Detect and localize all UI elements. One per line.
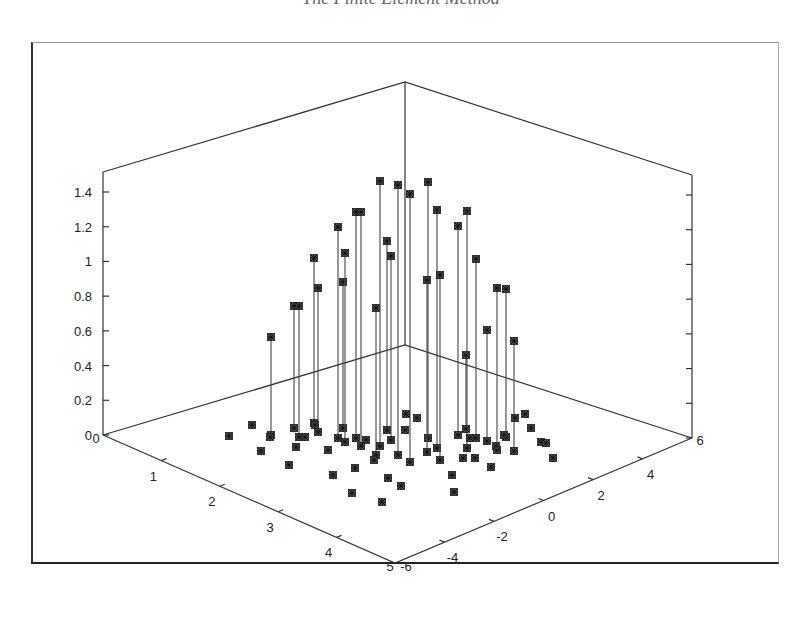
- x-tick-label: 4: [325, 545, 332, 560]
- asterisk-marker: [463, 207, 471, 215]
- y-tick: [588, 478, 593, 480]
- asterisk-marker: [406, 458, 414, 466]
- asterisk-marker: [483, 326, 491, 334]
- asterisk-marker: [257, 447, 265, 455]
- asterisk-marker: [511, 414, 519, 422]
- asterisk-marker: [339, 278, 347, 286]
- asterisk-marker: [394, 451, 402, 459]
- z-tick-label: 1.4: [74, 185, 92, 200]
- asterisk-marker: [314, 284, 322, 292]
- asterisk-marker: [225, 432, 233, 440]
- asterisk-marker: [285, 461, 293, 469]
- asterisk-marker: [334, 223, 342, 231]
- x-tick-label: 1: [150, 469, 157, 484]
- asterisk-marker: [341, 249, 349, 257]
- z-tick-label: 0.8: [74, 289, 92, 304]
- asterisk-marker: [527, 424, 535, 432]
- asterisk-marker: [370, 456, 378, 464]
- y-tick-label: 6: [696, 433, 703, 448]
- asterisk-marker: [394, 181, 402, 189]
- asterisk-marker: [378, 498, 386, 506]
- asterisk-marker: [436, 456, 444, 464]
- asterisk-marker: [384, 474, 392, 482]
- asterisk-marker: [310, 254, 318, 262]
- asterisk-marker: [487, 463, 495, 471]
- z-tick-label: 0.2: [74, 393, 92, 408]
- asterisk-marker: [459, 454, 467, 462]
- asterisk-marker: [292, 443, 300, 451]
- y-tick: [489, 519, 494, 521]
- y-tick: [440, 540, 445, 542]
- asterisk-marker: [492, 442, 500, 450]
- asterisk-marker: [466, 434, 474, 442]
- asterisk-marker: [549, 454, 557, 462]
- asterisk-marker: [493, 284, 501, 292]
- asterisk-marker: [424, 178, 432, 186]
- asterisk-marker: [502, 285, 510, 293]
- z-tick-label: 0: [85, 428, 92, 443]
- x-tick-label: 3: [267, 520, 274, 535]
- asterisk-marker: [311, 421, 319, 429]
- x-tick-label: 2: [208, 494, 215, 509]
- y-tick-label: 2: [597, 488, 604, 503]
- asterisk-marker: [301, 433, 309, 441]
- asterisk-marker: [324, 446, 332, 454]
- asterisk-marker: [341, 438, 349, 446]
- asterisk-marker: [483, 437, 491, 445]
- top-back-edges: [103, 82, 692, 175]
- asterisk-marker: [339, 424, 347, 432]
- asterisk-marker: [362, 436, 370, 444]
- x-tick-label: 5: [386, 559, 393, 574]
- asterisk-marker: [471, 454, 479, 462]
- asterisk-marker: [510, 337, 518, 345]
- z-tick-label: 0.4: [74, 359, 92, 374]
- asterisk-marker: [542, 439, 550, 447]
- asterisk-marker: [448, 471, 456, 479]
- y-tick: [638, 457, 643, 459]
- stem3d-plot: 00.20.40.60.811.21.4 012345 -6-4-20246: [0, 0, 802, 622]
- y-tick-label: -6: [400, 559, 412, 574]
- asterisk-marker: [433, 206, 441, 214]
- asterisk-marker: [454, 431, 462, 439]
- asterisk-marker: [463, 444, 471, 452]
- asterisk-marker: [462, 351, 470, 359]
- asterisk-marker: [413, 414, 421, 422]
- asterisk-marker: [510, 447, 518, 455]
- asterisk-marker: [387, 252, 395, 260]
- y-tick-label: -4: [447, 550, 459, 565]
- x-ticks: 012345: [92, 431, 393, 574]
- asterisk-marker: [462, 425, 470, 433]
- stem-series: [267, 177, 518, 466]
- y-tick: [539, 499, 544, 501]
- asterisk-marker: [329, 471, 337, 479]
- asterisk-marker: [290, 424, 298, 432]
- asterisk-marker: [376, 177, 384, 185]
- asterisk-marker: [267, 333, 275, 341]
- x-tick: [220, 484, 225, 486]
- z-tick-label: 1: [85, 254, 92, 269]
- asterisk-marker: [387, 436, 395, 444]
- asterisk-marker: [424, 434, 432, 442]
- asterisk-marker: [376, 442, 384, 450]
- asterisk-marker: [450, 488, 458, 496]
- x-tick: [161, 459, 166, 461]
- y-tick-label: -2: [496, 529, 508, 544]
- asterisk-marker: [401, 426, 409, 434]
- asterisk-marker: [472, 255, 480, 263]
- asterisk-marker: [423, 448, 431, 456]
- y-tick-label: 4: [647, 467, 654, 482]
- asterisk-marker: [351, 464, 359, 472]
- x-tick: [337, 535, 342, 537]
- asterisk-marker: [357, 208, 365, 216]
- asterisk-marker: [352, 434, 360, 442]
- z-tick-label: 0.6: [74, 324, 92, 339]
- asterisk-marker: [314, 428, 322, 436]
- asterisk-marker: [521, 410, 529, 418]
- z-tick-label: 1.2: [74, 220, 92, 235]
- y-tick-label: 0: [548, 509, 555, 524]
- asterisk-marker: [423, 276, 431, 284]
- asterisk-marker: [334, 434, 342, 442]
- x-tick: [278, 510, 283, 512]
- asterisk-marker: [406, 190, 414, 198]
- asterisk-marker: [348, 489, 356, 497]
